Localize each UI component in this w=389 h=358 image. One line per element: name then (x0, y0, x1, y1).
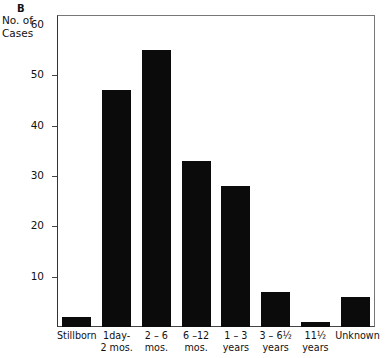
x-axis-label-line-2: mos. (137, 342, 177, 354)
x-axis-label-line-1: 3 – 6½ (256, 330, 296, 342)
bar (221, 186, 250, 327)
x-axis-label: 1day-2 mos. (97, 330, 137, 353)
bar (301, 322, 330, 327)
x-axis-label-line-2: 2 mos. (97, 342, 137, 354)
x-axis-label-line-2: years (296, 342, 336, 354)
x-axis-label-line-1: 6 –12 (176, 330, 216, 342)
x-axis-label: 2 – 6mos. (137, 330, 177, 353)
x-axis-label-line-1: 1day- (97, 330, 137, 342)
x-axis-label-line-2: years (216, 342, 256, 354)
bar (102, 90, 131, 327)
x-axis-label-line-1: 1 – 3 (216, 330, 256, 342)
x-axis-label-line-2: mos. (176, 342, 216, 354)
x-axis-label-line-2: years (256, 342, 296, 354)
x-axis-label: 11½years (296, 330, 336, 353)
y-tick-label-50: 50 (10, 68, 44, 80)
x-axis-label-line-1: 11½ (296, 330, 336, 342)
x-axis-label-line-1: Stillborn (57, 330, 97, 342)
x-axis-label-line-1: 2 – 6 (137, 330, 177, 342)
bar (142, 50, 171, 327)
x-axis-label-line-1: Unknown (335, 330, 375, 342)
panel-letter: B (17, 3, 25, 14)
y-tick-label-40: 40 (10, 119, 44, 131)
y-tick-label-60: 60 (10, 18, 44, 30)
bar-chart-panel-b: B No. of Cases 102030405060 Stillborn1da… (0, 0, 389, 358)
bar (261, 292, 290, 327)
y-tick-label-10: 10 (10, 270, 44, 282)
x-axis-label: Unknown (335, 330, 375, 342)
x-axis-label: 6 –12mos. (176, 330, 216, 353)
x-axis-labels: Stillborn1day-2 mos.2 – 6mos.6 –12mos.1 … (57, 330, 375, 358)
bar (182, 161, 211, 327)
x-axis-label: Stillborn (57, 330, 97, 342)
y-tick-label-20: 20 (10, 219, 44, 231)
x-axis-label: 1 – 3years (216, 330, 256, 353)
x-axis-label: 3 – 6½years (256, 330, 296, 353)
bars-layer (57, 15, 375, 327)
y-tick-label-30: 30 (10, 169, 44, 181)
bar (341, 297, 370, 327)
bar (62, 317, 91, 327)
